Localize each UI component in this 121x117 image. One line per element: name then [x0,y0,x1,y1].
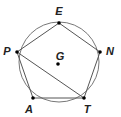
label-n: N [106,45,115,57]
label-g: G [56,50,65,62]
point-e [57,21,61,25]
diagonal-pt [17,52,84,98]
label-p: P [3,45,11,57]
point-a [31,96,35,100]
point-g [56,62,60,66]
label-t: T [84,103,92,115]
label-e: E [55,5,63,17]
pentagon-diagram: E N T A P G [0,0,121,117]
point-p [15,50,19,54]
point-n [98,50,102,54]
point-t [82,96,86,100]
label-a: A [24,103,33,115]
